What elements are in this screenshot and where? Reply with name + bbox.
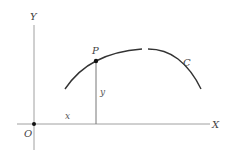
ordinate-y-label: y [99,87,106,97]
point-p-label: P [91,45,99,56]
origin-label: O [24,128,32,139]
origin-point [32,122,36,126]
abscissa-x-label: x [65,111,70,121]
point-p [94,59,98,63]
coordinate-diagram: Y X O P C y x [0,0,236,153]
curve-c-right [148,49,201,89]
x-axis-label: X [211,119,220,130]
curve-c-label: C [183,57,191,68]
curve-c-left [65,49,142,89]
y-axis-label: Y [30,11,38,22]
